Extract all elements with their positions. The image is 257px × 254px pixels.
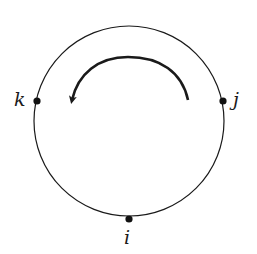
point-k bbox=[33, 97, 40, 104]
main-circle bbox=[34, 26, 224, 216]
label-i: i bbox=[124, 228, 130, 247]
diagram-canvas: k j i bbox=[0, 0, 257, 254]
label-k: k bbox=[14, 90, 26, 109]
label-j: j bbox=[233, 90, 239, 109]
point-j bbox=[219, 97, 226, 104]
point-i bbox=[125, 215, 132, 222]
diagram-svg bbox=[0, 0, 257, 254]
rotation-arrow bbox=[72, 57, 188, 100]
